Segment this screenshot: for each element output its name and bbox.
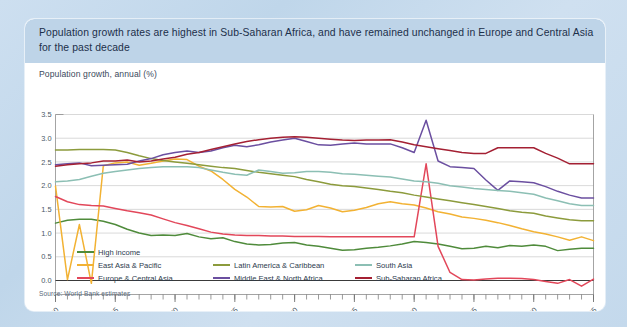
chart-legend: High incomeEast Asia & PacificEurope & C… bbox=[77, 248, 443, 283]
population-growth-line-chart: 0.00.51.01.52.02.53.03.5 196019651970197… bbox=[25, 63, 605, 311]
y-tick-label: 3.5 bbox=[41, 110, 51, 119]
series-line-high-income bbox=[56, 219, 594, 250]
y-tick-label: 0.0 bbox=[41, 276, 51, 285]
series-line-middle-east-north-africa bbox=[56, 120, 594, 198]
x-tick-labels-group: 1960196519701975198019851990199520002005 bbox=[43, 306, 599, 311]
series-line-south-asia bbox=[56, 167, 594, 206]
series-line-latin-america-caribbean bbox=[56, 150, 594, 221]
page-title: Population growth rates are highest in S… bbox=[39, 26, 595, 55]
legend-item-east-asia-pacific[interactable]: East Asia & Pacific bbox=[77, 261, 162, 270]
x-tick-label: 1970 bbox=[162, 306, 180, 311]
x-tick-label: 1975 bbox=[222, 306, 240, 311]
x-tick-label: 1965 bbox=[103, 306, 121, 311]
y-tick-labels-group: 0.00.51.01.52.02.53.03.5 bbox=[41, 110, 51, 285]
title-banner: Population growth rates are highest in S… bbox=[25, 19, 605, 63]
chart-card: Population growth rates are highest in S… bbox=[25, 19, 605, 311]
legend-item-middle-east-north-africa[interactable]: Middle East & North Africa bbox=[213, 274, 323, 283]
x-tick-label: 2005 bbox=[581, 306, 599, 311]
legend-label: Latin America & Caribbean bbox=[234, 261, 324, 270]
x-tick-label: 1990 bbox=[401, 306, 419, 311]
legend-item-high-income[interactable]: High income bbox=[77, 248, 140, 257]
x-tick-label: 1980 bbox=[282, 306, 300, 311]
legend-label: Europe & Central Asia bbox=[98, 274, 173, 283]
legend-item-sub-saharan-africa[interactable]: Sub-Saharan Africa bbox=[355, 274, 443, 283]
page-root: Population growth rates are highest in S… bbox=[0, 0, 627, 327]
y-tick-label: 1.0 bbox=[41, 229, 51, 238]
legend-label: Middle East & North Africa bbox=[234, 274, 323, 283]
legend-item-south-asia[interactable]: South Asia bbox=[355, 261, 413, 270]
x-tick-label: 1960 bbox=[43, 306, 61, 311]
legend-item-latin-america-caribbean[interactable]: Latin America & Caribbean bbox=[213, 261, 324, 270]
legend-label: High income bbox=[98, 248, 140, 257]
y-tick-label: 3.0 bbox=[41, 134, 51, 143]
y-tick-label: 2.0 bbox=[41, 181, 51, 190]
y-tick-label: 0.5 bbox=[41, 252, 51, 261]
x-tick-marks-group bbox=[56, 295, 594, 303]
source-note: Source: World Bank estimates bbox=[39, 290, 130, 297]
y-tick-label: 1.5 bbox=[41, 205, 51, 214]
legend-label: South Asia bbox=[376, 261, 413, 270]
x-tick-label: 1995 bbox=[461, 306, 479, 311]
y-tick-label: 2.5 bbox=[41, 158, 51, 167]
x-tick-label: 2000 bbox=[521, 306, 539, 311]
legend-label: Sub-Saharan Africa bbox=[376, 274, 443, 283]
legend-label: East Asia & Pacific bbox=[98, 261, 162, 270]
x-tick-label: 1985 bbox=[342, 306, 360, 311]
